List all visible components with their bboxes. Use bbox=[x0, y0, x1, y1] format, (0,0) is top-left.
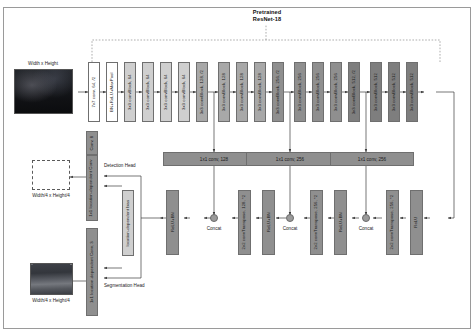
encoder-block-stage3-3: 3x3 convBlock, 256 bbox=[312, 62, 324, 122]
concat-label-1: Concat bbox=[198, 226, 230, 231]
encoder-block-label: 3x3 convBlock, 256 bbox=[298, 73, 302, 111]
decoder-relu-bn-3-label: ReLU+BN bbox=[338, 213, 342, 233]
encoder-block-stage1-3: 3x3 convBlock, 64 bbox=[160, 62, 172, 122]
location-dependent-bias: location-dependent bias bbox=[122, 190, 134, 256]
encoder-block-stem-2: BN+ReLU+MaxPool bbox=[106, 62, 118, 122]
figure-title-line2: ResNet-18 bbox=[222, 16, 312, 23]
conv8-block: Conv, 8 bbox=[86, 131, 98, 155]
decoder-upconv-2: 2x2 convTranspose, 256, *2 bbox=[310, 190, 323, 255]
decoder-upconv-1: 2x2 convTranspose, 128, *2 bbox=[238, 190, 251, 255]
diagram-frame bbox=[3, 7, 471, 329]
encoder-block-stage1-4: 3x3 convBlock, 64 bbox=[178, 62, 190, 122]
segmentation-output-label: Width/4 x Height/4 bbox=[12, 298, 90, 303]
segmentation-head-conv-label: 1x1 location-dependent Conv, 3 bbox=[90, 241, 94, 303]
encoder-block-stage2-3: 3x3 convBlock, 128 bbox=[236, 62, 248, 122]
skip-conv-bar-2: 1x1 conv, 256 bbox=[246, 152, 334, 166]
concat-node-3 bbox=[362, 214, 370, 222]
input-image-label: Width x Height bbox=[8, 61, 78, 66]
encoder-block-label: 3x3 convBlock, 64 bbox=[146, 74, 150, 110]
input-image bbox=[14, 69, 73, 114]
concat-node-1 bbox=[210, 214, 218, 222]
encoder-block-stage2-4: 3x3 convBlock, 128 bbox=[254, 62, 266, 122]
encoder-block-stage4-1: 3x3 convBlock, 512, /2 bbox=[348, 62, 360, 122]
detection-head-label: Detection Head bbox=[104, 163, 136, 168]
concat-label-2: Concat bbox=[274, 226, 306, 231]
decoder-relu-4-label: ReLU bbox=[414, 217, 418, 228]
encoder-block-label: 3x3 convBlock, 256, /2 bbox=[276, 70, 280, 114]
encoder-block-label: 3x3 convBlock, 256 bbox=[334, 73, 338, 111]
encoder-block-stage4-4: 3x3 convBlock, 512 bbox=[406, 62, 418, 122]
encoder-block-label: 3x3 convBlock, 64 bbox=[182, 74, 186, 110]
encoder-block-label: 3x3 convBlock, 64 bbox=[164, 74, 168, 110]
encoder-block-stage2-1: 3x3 convBlock, 128, /2 bbox=[196, 62, 208, 122]
figure-title: Pretrained ResNet-18 bbox=[222, 9, 312, 22]
concat-label-3: Concat bbox=[350, 226, 382, 231]
encoder-block-label: 3x3 convBlock, 256 bbox=[316, 73, 320, 111]
encoder-block-stage2-2: 3x3 convBlock, 128 bbox=[218, 62, 230, 122]
concat-node-2 bbox=[286, 214, 294, 222]
encoder-block-stem-1: 7x7 conv, 64, /2 bbox=[88, 62, 100, 122]
figure-title-line1: Pretrained bbox=[222, 9, 312, 16]
detection-output-image bbox=[32, 160, 70, 190]
encoder-block-label: 7x7 conv, 64, /2 bbox=[92, 77, 96, 108]
decoder-relu-4: ReLU bbox=[410, 190, 423, 255]
encoder-block-stage3-1: 3x3 convBlock, 256, /2 bbox=[272, 62, 284, 122]
encoder-block-label: BN+ReLU+MaxPool bbox=[110, 72, 114, 111]
encoder-block-stage1-1: 3x3 convBlock, 64 bbox=[124, 62, 136, 122]
encoder-block-stage4-3: 3x3 convBlock, 512 bbox=[388, 62, 400, 122]
encoder-block-label: 3x3 convBlock, 64 bbox=[128, 74, 132, 110]
skip-conv-bar-3: 1x1 conv, 256 bbox=[330, 152, 414, 166]
detection-head-conv-label: 1x1 location-dependent Conv bbox=[90, 159, 94, 216]
encoder-block-label: 3x3 convBlock, 128 bbox=[240, 73, 244, 111]
encoder-block-label: 3x3 convBlock, 128 bbox=[222, 73, 226, 111]
detection-output-label: Width/4 x Height/4 bbox=[12, 193, 90, 198]
encoder-block-label: 3x3 convBlock, 512 bbox=[374, 73, 378, 111]
encoder-block-stage4-2: 3x3 convBlock, 512 bbox=[370, 62, 382, 122]
decoder-relu-bn-1: ReLU+BN bbox=[166, 190, 179, 255]
encoder-block-stage3-2: 3x3 convBlock, 256 bbox=[294, 62, 306, 122]
encoder-block-label: 3x3 convBlock, 128 bbox=[258, 73, 262, 111]
location-dependent-bias-label: location-dependent bias bbox=[126, 200, 130, 247]
segmentation-head-label: Segmentation Head bbox=[104, 283, 145, 288]
encoder-block-label: 3x3 convBlock, 128, /2 bbox=[200, 70, 204, 114]
detection-head-conv: 1x1 location-dependent Conv bbox=[86, 155, 98, 221]
decoder-relu-bn-2-label: ReLU+BN bbox=[266, 213, 270, 233]
decoder-upconv-2-label: 2x2 convTranspose, 256, *2 bbox=[314, 195, 318, 250]
segmentation-output-image bbox=[30, 263, 73, 295]
network-architecture-diagram: Pretrained ResNet-18 Width x Height 7x7 … bbox=[0, 0, 474, 333]
decoder-upconv-3-label: 2x2 convTranspose, 256, *2 bbox=[390, 195, 394, 250]
encoder-block-label: 3x3 convBlock, 512 bbox=[392, 73, 396, 111]
decoder-relu-bn-3: ReLU+BN bbox=[334, 190, 347, 255]
conv8-label: Conv, 8 bbox=[90, 136, 94, 151]
decoder-upconv-3: 2x2 convTranspose, 256, *2 bbox=[386, 190, 399, 255]
encoder-block-stage1-2: 3x3 convBlock, 64 bbox=[142, 62, 154, 122]
encoder-block-label: 3x3 convBlock, 512, /2 bbox=[352, 70, 356, 114]
decoder-relu-bn-1-label: ReLU+BN bbox=[170, 213, 174, 233]
decoder-upconv-1-label: 2x2 convTranspose, 128, *2 bbox=[242, 195, 246, 250]
decoder-relu-bn-2: ReLU+BN bbox=[262, 190, 275, 255]
encoder-block-stage3-4: 3x3 convBlock, 256 bbox=[330, 62, 342, 122]
encoder-block-label: 3x3 convBlock, 512 bbox=[410, 73, 414, 111]
